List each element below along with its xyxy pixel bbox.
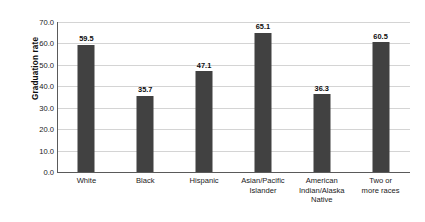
bar-group[interactable]: 65.1 bbox=[234, 22, 293, 172]
axis-baseline bbox=[57, 172, 410, 173]
y-tick-label: 0.0 bbox=[18, 168, 54, 177]
bar[interactable] bbox=[137, 96, 154, 173]
bar-value-label: 35.7 bbox=[138, 85, 152, 94]
y-tick-label: 70.0 bbox=[18, 18, 54, 27]
y-tick-label: 10.0 bbox=[18, 146, 54, 155]
bar-value-label: 59.5 bbox=[79, 34, 93, 43]
y-tick-label: 30.0 bbox=[18, 103, 54, 112]
bars-layer: 59.535.747.165.136.360.5 bbox=[57, 22, 410, 172]
bar[interactable] bbox=[196, 71, 213, 172]
bar-group[interactable]: 36.3 bbox=[292, 22, 351, 172]
bar[interactable] bbox=[313, 94, 330, 172]
y-tick-label: 20.0 bbox=[18, 125, 54, 134]
plot-area: 59.535.747.165.136.360.5 bbox=[57, 22, 410, 172]
bar[interactable] bbox=[254, 33, 271, 173]
x-axis-tick-labels: WhiteBlackHispanicAsian/PacificIslanderA… bbox=[57, 176, 410, 218]
bar-value-label: 47.1 bbox=[197, 61, 211, 70]
bar[interactable] bbox=[372, 42, 389, 172]
bar-group[interactable]: 60.5 bbox=[351, 22, 410, 172]
bar-group[interactable]: 47.1 bbox=[175, 22, 234, 172]
x-tick-label-line: Two or bbox=[345, 176, 417, 186]
x-tick-label: Two ormore races bbox=[345, 176, 417, 195]
x-tick-label-line: more races bbox=[345, 186, 417, 196]
y-axis-tick-labels: 70.060.050.040.030.020.010.00.0 bbox=[18, 22, 54, 172]
bar-group[interactable]: 35.7 bbox=[116, 22, 175, 172]
y-tick-label: 50.0 bbox=[18, 60, 54, 69]
x-tick-label-line: Native bbox=[286, 195, 358, 205]
y-tick-label: 40.0 bbox=[18, 82, 54, 91]
bar-value-label: 36.3 bbox=[315, 84, 329, 93]
graduation-rate-bar-chart: Graduation rate 70.060.050.040.030.020.0… bbox=[0, 0, 425, 222]
bar-value-label: 60.5 bbox=[373, 32, 387, 41]
bar-group[interactable]: 59.5 bbox=[57, 22, 116, 172]
y-tick-label: 60.0 bbox=[18, 39, 54, 48]
bar-value-label: 65.1 bbox=[256, 22, 270, 31]
bar[interactable] bbox=[78, 45, 95, 173]
